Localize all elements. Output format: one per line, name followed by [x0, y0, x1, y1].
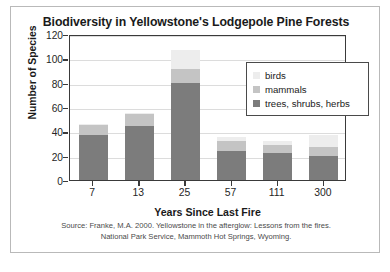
- bar-segment: [263, 153, 292, 180]
- bar-segment: [171, 50, 200, 69]
- x-tick-mark: [92, 181, 93, 186]
- bar-stack: [79, 124, 108, 180]
- y-tick-label: 20: [37, 151, 63, 162]
- bar-segment: [171, 69, 200, 82]
- legend-item: mammals: [253, 82, 362, 96]
- y-axis-tick-labels: 020406080100120: [33, 35, 63, 181]
- y-tick-mark: [63, 132, 68, 133]
- bar-segment: [263, 145, 292, 154]
- legend-label: birds: [265, 70, 286, 81]
- x-tick-mark: [277, 181, 278, 186]
- y-tick-label: 40: [37, 127, 63, 138]
- y-tick-mark: [63, 157, 68, 158]
- legend-item: birds: [253, 68, 362, 82]
- y-tick-mark: [63, 84, 68, 85]
- legend-swatch-icon: [253, 100, 260, 107]
- source-line-2: National Park Service, Mammoth Hot Sprin…: [25, 232, 367, 243]
- bar-segment: [309, 156, 338, 180]
- bar-stack: [125, 113, 154, 180]
- bar-segment: [125, 126, 154, 180]
- chart-page: Biodiversity in Yellowstone's Lodgepole …: [0, 0, 390, 272]
- chart-title: Biodiversity in Yellowstone's Lodgepole …: [11, 15, 381, 29]
- x-tick-label: 300: [293, 187, 353, 198]
- legend-label: trees, shrubs, herbs: [265, 98, 350, 109]
- source-line-1: Source: Franke, M.A. 2000. Yellowstone i…: [61, 221, 331, 230]
- chart-legend: birdsmammalstrees, shrubs, herbs: [246, 62, 369, 116]
- y-tick-label: 60: [37, 103, 63, 114]
- x-tick-mark: [184, 181, 185, 186]
- bar-stack: [309, 135, 338, 180]
- legend-label: mammals: [265, 84, 307, 95]
- y-tick-label: 120: [37, 30, 63, 41]
- y-tick-mark: [63, 181, 68, 182]
- bar-segment: [309, 147, 338, 156]
- bar-segment: [79, 135, 108, 180]
- figure-frame: Biodiversity in Yellowstone's Lodgepole …: [10, 6, 380, 253]
- legend-swatch-icon: [253, 72, 260, 79]
- x-axis-title: Years Since Last Fire: [69, 206, 346, 218]
- y-tick-label: 80: [37, 78, 63, 89]
- bar-segment: [125, 114, 154, 126]
- bar-segment: [79, 125, 108, 135]
- bar-segment: [217, 141, 246, 151]
- y-tick-mark: [63, 35, 68, 36]
- x-tick-mark: [138, 181, 139, 186]
- x-tick-mark: [231, 181, 232, 186]
- y-tick-label: 0: [37, 176, 63, 187]
- bar-stack: [263, 141, 292, 180]
- y-tick-mark: [63, 108, 68, 109]
- y-tick-label: 100: [37, 54, 63, 65]
- bar-stack: [171, 50, 200, 180]
- source-note: Source: Franke, M.A. 2000. Yellowstone i…: [25, 221, 367, 242]
- bar-segment: [217, 151, 246, 180]
- bar-segment: [171, 83, 200, 180]
- bar-stack: [217, 137, 246, 180]
- bar-segment: [309, 135, 338, 147]
- y-tick-mark: [63, 59, 68, 60]
- x-tick-mark: [323, 181, 324, 186]
- legend-swatch-icon: [253, 86, 260, 93]
- legend-item: trees, shrubs, herbs: [253, 96, 362, 110]
